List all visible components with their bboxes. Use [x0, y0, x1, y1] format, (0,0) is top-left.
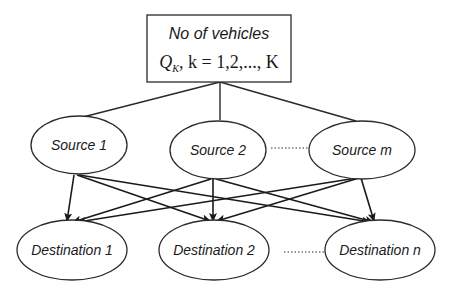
source-node-m: Source m	[309, 121, 415, 179]
formula-rest: , k = 1,2,..., K	[179, 52, 279, 72]
destination-2-label: Destination 2	[173, 242, 255, 258]
arrow-source-m-dest-1	[78, 178, 357, 222]
arrow-source-1-dest-1	[67, 175, 74, 221]
vehicle-routing-diagram: No of vehicles QK, k = 1,2,..., K Source…	[0, 0, 455, 297]
source-2-label: Source 2	[190, 142, 246, 158]
vehicle-count-box: No of vehicles QK, k = 1,2,..., K	[147, 15, 291, 82]
source-1-label: Source 1	[51, 137, 107, 153]
source-node-2: Source 2	[170, 121, 266, 179]
connector-box-source-m	[220, 82, 356, 121]
source-m-label: Source m	[332, 142, 392, 158]
connector-box-source-1	[83, 82, 220, 117]
formula-symbol: Q	[159, 52, 172, 72]
arrow-source-m-dest-n	[361, 178, 374, 221]
diagram-svg: No of vehicles QK, k = 1,2,..., K Source…	[0, 0, 455, 297]
box-to-source-connectors	[83, 82, 356, 121]
source-to-destination-arrows	[67, 175, 374, 222]
destination-node-n: Destination n	[325, 220, 435, 280]
destination-node-2: Destination 2	[159, 220, 269, 280]
source-node-1: Source 1	[31, 116, 127, 174]
destination-n-label: Destination n	[339, 242, 421, 258]
destination-1-label: Destination 1	[31, 242, 113, 258]
destination-node-1: Destination 1	[17, 220, 127, 280]
vehicle-count-title: No of vehicles	[169, 25, 270, 42]
